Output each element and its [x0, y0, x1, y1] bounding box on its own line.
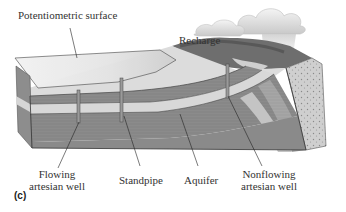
standpipe-well: [120, 78, 123, 122]
artesian-aquifer-diagram: Potentiometric surface Recharge Flowing …: [0, 0, 346, 212]
aquifer-label: Aquifer: [184, 174, 218, 186]
standpipe-label: Standpipe: [119, 174, 163, 186]
recharge-label: Recharge: [179, 34, 220, 46]
nonflowing-artesian-well: [226, 64, 229, 98]
nonflowing-well-line1: Nonflowing: [235, 168, 303, 180]
potentiometric-surface-label: Potentiometric surface: [18, 9, 117, 21]
nonflowing-artesian-well-label: Nonflowing artesian well: [235, 168, 303, 192]
panel-label: (c): [14, 190, 26, 201]
flowing-artesian-well: [77, 90, 80, 123]
flowing-well-line1: Flowing: [22, 168, 92, 180]
nonflowing-well-line2: artesian well: [235, 180, 303, 192]
flowing-well-line2: artesian well: [22, 180, 92, 192]
flowing-artesian-well-label: Flowing artesian well: [22, 168, 92, 192]
